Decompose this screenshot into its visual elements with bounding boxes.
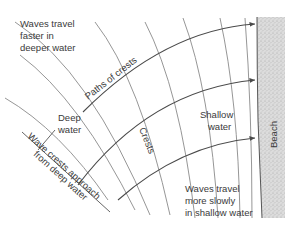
label-slower-3: in shallow water [185,207,253,218]
wave-refraction-diagram: Waves travel faster in deeper water Path… [0,0,299,227]
label-slower-2: more slowly [185,195,235,206]
label-faster-3: deeper water [20,42,75,53]
beach [257,17,285,218]
label-faster-1: Waves travel [20,18,75,29]
label-shallow-1: Shallow [200,109,233,120]
label-slower-1: Waves travel [185,183,240,194]
label-faster-2: faster in [20,30,54,41]
label-deep-1: Deep [58,112,81,123]
label-shallow-2: water [207,121,231,132]
label-approach-1: Wave crests approach [26,130,103,201]
label-beach: Beach [268,121,279,148]
label-deep-2: water [57,124,81,135]
label-paths-of-crests: Paths of crests [82,54,138,102]
label-crests: Crests [137,126,158,156]
